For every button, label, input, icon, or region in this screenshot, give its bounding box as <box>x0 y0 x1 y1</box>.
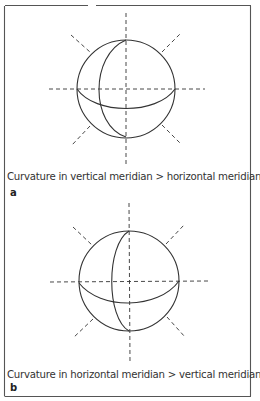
panel-b-diagonal-ur <box>166 225 184 244</box>
panel-b-diagonal-ul <box>73 227 92 245</box>
panel-a-label: a <box>10 187 17 198</box>
panel-a-diagonal-lr <box>162 125 181 144</box>
panel-a-caption: Curvature in vertical meridian > horizon… <box>7 171 260 182</box>
panel-b-diagonal-ll <box>73 319 93 338</box>
figure-canvas <box>0 0 260 401</box>
panel-a-diagonal-ur <box>162 33 181 52</box>
panel-b-horizontal-meridian <box>79 281 179 303</box>
panel-b-diagram <box>50 203 208 362</box>
panel-a-diagram <box>49 13 205 167</box>
panel-a-dashed-axes <box>49 13 205 167</box>
panel-a-diagonal-ll <box>72 126 90 145</box>
panel-b-horizontal-axis <box>50 281 208 282</box>
panel-b-dashed-axes <box>50 203 208 362</box>
panel-b-vertical-meridian <box>112 231 129 331</box>
panel-a-vertical-meridian <box>99 40 126 137</box>
panel-b-caption: Curvature in horizontal meridian > verti… <box>7 369 260 380</box>
panel-a-diagonal-ul <box>71 35 90 52</box>
panel-b-label: b <box>10 382 17 393</box>
panel-b-diagonal-lr <box>167 317 185 337</box>
figure-border <box>5 6 252 397</box>
panel-b-vertical-axis <box>129 203 130 362</box>
